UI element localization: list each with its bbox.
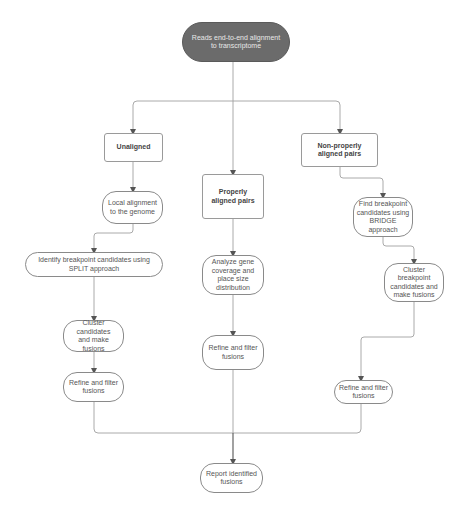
node-analyze-label: Analyze gene coverage and place size dis… — [203, 258, 263, 292]
node-non-properly-aligned-label: Non-properly aligned pairs — [302, 142, 377, 159]
node-cluster-left-label: Cluster candidates and make fusions — [64, 319, 123, 353]
node-analyze: Analyze gene coverage and place size dis… — [202, 255, 264, 295]
node-cluster-right-label: Cluster breakpoint candidates and make f… — [385, 266, 443, 300]
node-local-alignment-label: Local alignment to the genome — [103, 199, 162, 216]
node-cluster-left: Cluster candidates and make fusions — [63, 320, 124, 352]
node-unaligned: Unaligned — [104, 133, 163, 162]
node-refine-middle: Refine and filter fusions — [202, 335, 264, 370]
node-refine-left-label: Refine and filter fusions — [64, 379, 123, 396]
node-properly-aligned-label: Properly aligned pairs — [203, 188, 263, 205]
node-refine-right: Refine and filter fusions — [334, 380, 393, 404]
node-unaligned-label: Unaligned — [115, 143, 153, 152]
node-refine-right-label: Refine and filter fusions — [335, 384, 392, 401]
node-bridge: Find breakpoint candidates using BRIDGE … — [353, 197, 413, 237]
node-non-properly-aligned: Non-properly aligned pairs — [301, 133, 378, 167]
node-start: Reads end-to-end alignment to transcript… — [182, 22, 290, 62]
node-local-alignment: Local alignment to the genome — [102, 191, 163, 224]
node-report: Report identified fusions — [200, 463, 263, 493]
node-properly-aligned: Properly aligned pairs — [202, 174, 264, 219]
node-split-label: Identify breakpoint candidates using SPL… — [26, 256, 162, 273]
node-bridge-label: Find breakpoint candidates using BRIDGE … — [354, 200, 412, 234]
node-cluster-right: Cluster breakpoint candidates and make f… — [384, 263, 444, 302]
node-refine-left: Refine and filter fusions — [63, 372, 124, 402]
node-split: Identify breakpoint candidates using SPL… — [25, 252, 163, 277]
node-start-label: Reads end-to-end alignment to transcript… — [183, 34, 289, 51]
node-refine-middle-label: Refine and filter fusions — [203, 344, 263, 361]
node-report-label: Report identified fusions — [201, 470, 262, 487]
